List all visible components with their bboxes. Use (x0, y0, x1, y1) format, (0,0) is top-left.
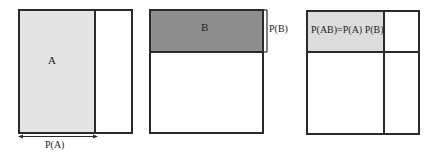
p-b-label: P(B) (269, 24, 288, 34)
panel-ab-horizontal-divider (308, 51, 418, 53)
region-ab-label: P(AB)=P(A) P(B) (311, 25, 384, 35)
